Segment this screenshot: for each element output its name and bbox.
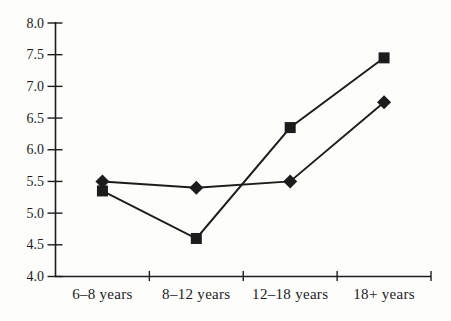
y-tick-label: 4.0 bbox=[27, 269, 45, 284]
y-tick-label: 7.0 bbox=[27, 79, 45, 94]
square-series-marker bbox=[191, 233, 202, 244]
x-category-label: 8–12 years bbox=[162, 286, 230, 302]
square-series-marker bbox=[379, 52, 390, 63]
y-tick-label: 7.5 bbox=[27, 47, 45, 62]
line-chart-svg: 4.04.55.05.56.06.57.07.58.06–8 years8–12… bbox=[0, 0, 451, 321]
y-tick-label: 5.0 bbox=[27, 206, 45, 221]
diamond-series-line bbox=[102, 102, 384, 188]
x-category-label: 18+ years bbox=[353, 286, 415, 302]
x-category-label: 12–18 years bbox=[252, 286, 328, 302]
y-tick-label: 5.5 bbox=[27, 174, 45, 189]
y-tick-label: 8.0 bbox=[27, 16, 45, 31]
x-category-label: 6–8 years bbox=[72, 286, 133, 302]
square-series-line bbox=[102, 58, 384, 239]
y-tick-label: 6.5 bbox=[27, 111, 45, 126]
y-tick-label: 4.5 bbox=[27, 237, 45, 252]
y-tick-label: 6.0 bbox=[27, 142, 45, 157]
square-series-marker bbox=[285, 122, 296, 133]
line-chart-figure: 4.04.55.05.56.06.57.07.58.06–8 years8–12… bbox=[0, 0, 451, 321]
diamond-series-marker bbox=[189, 181, 203, 195]
